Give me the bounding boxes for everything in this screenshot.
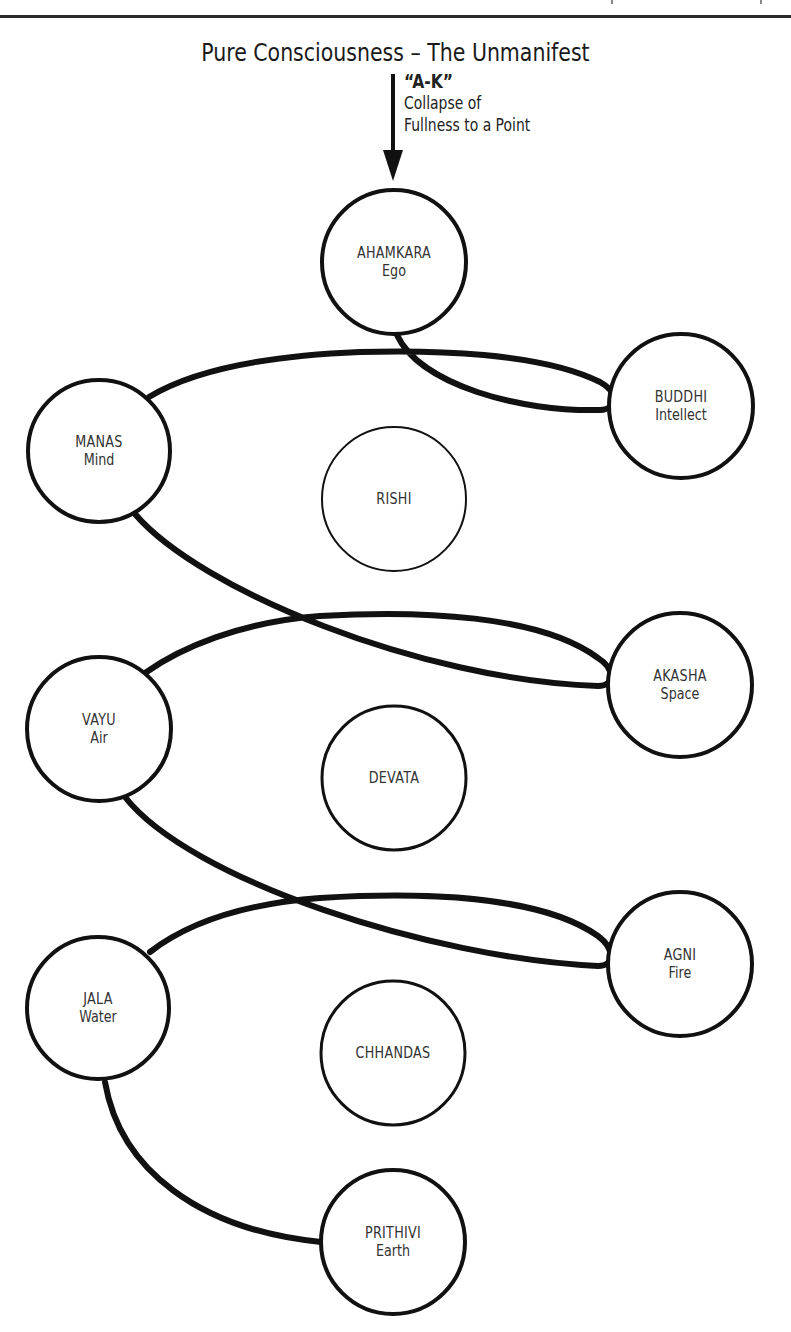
node-name: VAYU	[35, 711, 163, 729]
diagram-title: Pure Consciousness – The Unmanifest	[71, 38, 720, 67]
collapse-arrow	[383, 74, 403, 181]
node-agni: AGNI Fire	[616, 946, 744, 982]
node-name: AHAMKARA	[330, 244, 458, 262]
node-akasha: AKASHA Space	[616, 667, 744, 703]
node-rishi: RISHI	[330, 490, 458, 508]
annotation-ak: “A-K”	[404, 70, 530, 92]
node-manas: MANAS Mind	[35, 433, 163, 469]
node-name: CHHANDAS	[329, 1044, 457, 1062]
collapse-annotation: “A-K” Collapse of Fullness to a Point	[404, 70, 530, 136]
node-buddhi: BUDDHI Intellect	[617, 388, 745, 424]
node-chhandas: CHHANDAS	[329, 1044, 457, 1062]
node-name: DEVATA	[330, 769, 458, 787]
node-sub: Air	[35, 729, 163, 747]
node-name: MANAS	[35, 433, 163, 451]
node-name: JALA	[34, 990, 162, 1008]
node-sub: Space	[616, 685, 744, 703]
edge-jala-prithivi	[105, 1082, 321, 1242]
node-name: RISHI	[330, 490, 458, 508]
node-sub: Mind	[35, 451, 163, 469]
edge-ahamkara-buddhi	[149, 335, 614, 410]
node-sub: Intellect	[617, 406, 745, 424]
node-name: BUDDHI	[617, 388, 745, 406]
node-name: AKASHA	[616, 667, 744, 685]
annotation-line-2: Fullness to a Point	[404, 114, 530, 136]
node-jala: JALA Water	[34, 990, 162, 1026]
node-sub: Earth	[329, 1242, 457, 1260]
node-devata: DEVATA	[330, 769, 458, 787]
node-sub: Ego	[330, 262, 458, 280]
node-name: AGNI	[616, 946, 744, 964]
node-ahamkara: AHAMKARA Ego	[330, 244, 458, 280]
node-prithivi: PRITHIVI Earth	[329, 1224, 457, 1260]
diagram-canvas	[0, 0, 791, 1332]
node-name: PRITHIVI	[329, 1224, 457, 1242]
node-sub: Water	[34, 1008, 162, 1026]
annotation-line-1: Collapse of	[404, 92, 530, 114]
node-circles	[27, 190, 753, 1314]
node-sub: Fire	[616, 964, 744, 982]
node-vayu: VAYU Air	[35, 711, 163, 747]
